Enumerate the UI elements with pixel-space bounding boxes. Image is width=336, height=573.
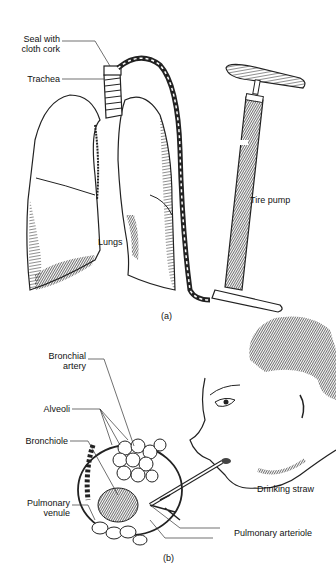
figure-a-leader-lines bbox=[62, 41, 110, 79]
tire-pump-drawing bbox=[212, 64, 305, 312]
label-venule-line2: venule bbox=[2, 508, 70, 518]
face-drawing bbox=[190, 317, 336, 489]
label-seal-line2: cloth cork bbox=[4, 44, 60, 54]
label-pulmonary-venule: Pulmonary venule bbox=[2, 498, 70, 518]
label-bronchial-line1: Bronchial bbox=[2, 351, 86, 361]
label-bronchiole: Bronchiole bbox=[2, 436, 68, 446]
caption-figure-b: (b) bbox=[163, 553, 174, 563]
label-lungs: Lungs bbox=[98, 237, 123, 247]
label-bronchial-line2: artery bbox=[2, 361, 86, 371]
alveoli-drawing bbox=[78, 439, 182, 545]
lungs-drawing bbox=[27, 95, 175, 290]
label-pulmonary-arteriole: Pulmonary arteriole bbox=[234, 528, 312, 538]
drinking-straw-drawing bbox=[150, 462, 222, 505]
label-seal-line1: Seal with bbox=[4, 34, 60, 44]
label-venule-line1: Pulmonary bbox=[2, 498, 70, 508]
label-tire-pump: Tire pump bbox=[250, 195, 290, 205]
label-seal-with-cloth-cork: Seal with cloth cork bbox=[4, 34, 60, 54]
label-drinking-straw: Drinking straw bbox=[257, 484, 314, 494]
trachea-drawing bbox=[104, 66, 122, 118]
caption-figure-a: (a) bbox=[161, 311, 172, 321]
label-bronchial-artery: Bronchial artery bbox=[2, 351, 86, 371]
label-trachea: Trachea bbox=[4, 74, 60, 84]
label-alveoli: Alveoli bbox=[2, 404, 70, 414]
